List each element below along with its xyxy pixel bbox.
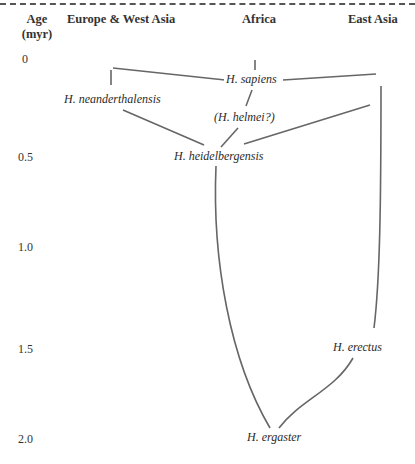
sapiens-to-east-asia-line [283, 74, 376, 80]
phylogeny-lines [0, 0, 415, 464]
taxon-h-erectus: H. erectus [331, 340, 384, 355]
neanderthal-to-heidelbergensis-line [123, 110, 204, 145]
taxon-h-sapiens: H. sapiens [224, 72, 279, 87]
taxon-h-ergaster: H. ergaster [245, 430, 303, 445]
taxon-h-helmei: (H. helmei?) [212, 110, 277, 125]
east-asia-to-erectus-line [374, 86, 381, 328]
sapiens-to-europe-line [113, 68, 225, 80]
helmei-to-heidelbergensis-line [221, 128, 238, 147]
erectus-to-ergaster-line [279, 358, 353, 428]
taxon-h-neanderthalensis: H. neanderthalensis [62, 92, 163, 107]
sapiens-to-helmei-line [246, 90, 252, 106]
heidelbergensis-to-ergaster-line [215, 166, 270, 428]
taxon-h-heidelbergensis: H. heidelbergensis [172, 149, 266, 164]
